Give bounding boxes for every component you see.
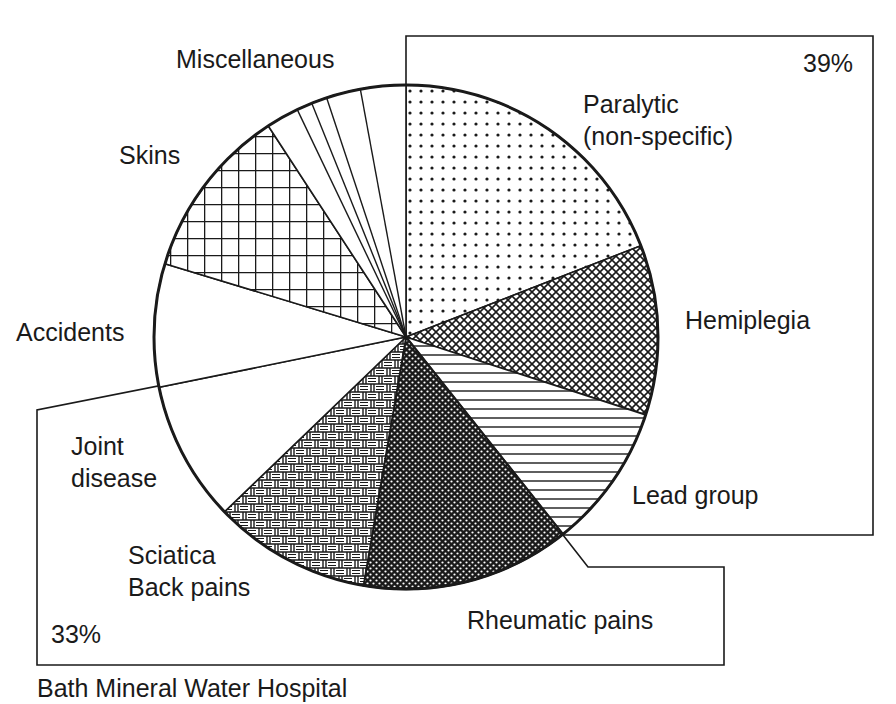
pie-slices xyxy=(154,85,658,589)
label-accidents: Accidents xyxy=(16,316,124,348)
label-joint-disease: Joint disease xyxy=(71,430,157,494)
label-joint-line2: disease xyxy=(71,462,157,494)
label-lead-group: Lead group xyxy=(632,479,759,511)
label-hemiplegia: Hemiplegia xyxy=(685,304,810,336)
label-paralytic: Paralytic (non-specific) xyxy=(583,88,733,152)
label-sciatica-line2: Back pains xyxy=(128,571,250,603)
group-pct-33: 33% xyxy=(51,618,101,650)
label-miscellaneous: Miscellaneous xyxy=(176,43,334,75)
group-pct-39: 39% xyxy=(803,47,853,79)
label-paralytic-line1: Paralytic xyxy=(583,88,733,120)
label-sciatica: Sciatica Back pains xyxy=(128,539,250,603)
label-joint-line1: Joint xyxy=(71,430,157,462)
label-skins: Skins xyxy=(119,139,180,171)
label-rheumatic-pains: Rheumatic pains xyxy=(467,604,653,636)
chart-caption: Bath Mineral Water Hospital xyxy=(37,672,347,704)
label-paralytic-line2: (non-specific) xyxy=(583,120,733,152)
label-sciatica-line1: Sciatica xyxy=(128,539,250,571)
